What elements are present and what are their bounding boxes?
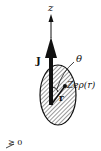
position-vector-label: r bbox=[59, 94, 64, 103]
j-vector-label: J bbox=[36, 56, 41, 66]
charge-density-label: Zeρ(r) bbox=[67, 81, 95, 90]
z-axis-label: z bbox=[48, 3, 53, 13]
j-vector-arrowhead bbox=[45, 37, 57, 58]
theta-label: θ bbox=[76, 54, 82, 64]
z-axis-arrowhead bbox=[49, 14, 54, 22]
bottom-partial-label: ≥ 0 bbox=[8, 139, 22, 147]
nucleus-diagram bbox=[0, 0, 101, 151]
